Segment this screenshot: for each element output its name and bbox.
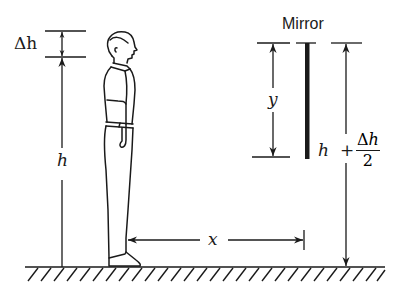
mirror-label: Mirror <box>282 16 324 32</box>
fraction-denominator: 2 <box>363 151 373 169</box>
fraction-numerator: Δh <box>356 132 380 151</box>
fraction-delta: Δ <box>357 130 369 149</box>
x-label: x <box>208 231 218 248</box>
person-silhouette <box>104 32 140 266</box>
h-label-left: h <box>57 152 68 169</box>
delta-h-dimension <box>45 31 86 57</box>
delta-h-label: Δh <box>14 35 37 52</box>
ground-hatch <box>25 267 385 281</box>
plus-sign: + <box>340 142 354 159</box>
mirror-bar <box>296 43 316 159</box>
delta-h-over-2-fraction: Δh 2 <box>356 132 380 169</box>
fraction-h: h <box>369 130 379 149</box>
h-label-right: h <box>318 142 329 159</box>
y-label: y <box>268 91 278 108</box>
